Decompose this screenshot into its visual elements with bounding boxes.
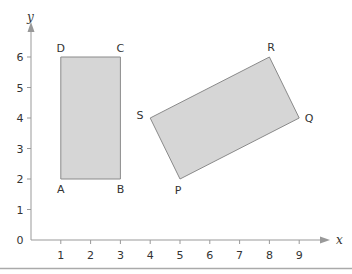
origin-label: 0 [17, 234, 24, 247]
x-tick-label: 2 [87, 249, 94, 262]
x-axis-label: x [336, 233, 343, 247]
vertex-label-c: C [117, 42, 125, 55]
y-tick-label: 3 [17, 143, 24, 156]
x-tick-label: 7 [236, 249, 243, 262]
y-ticks [27, 57, 31, 210]
vertex-label-p: P [175, 184, 182, 197]
x-tick-label: 4 [147, 249, 154, 262]
x-tick-label: 3 [117, 249, 124, 262]
y-tick-label: 6 [17, 51, 24, 64]
x-axis-arrow-icon [320, 237, 330, 244]
vertex-label-b: B [117, 183, 125, 196]
x-ticks [61, 240, 299, 244]
y-tick-label: 1 [17, 204, 24, 217]
x-tick-label: 9 [296, 249, 303, 262]
x-tick-label: 6 [206, 249, 213, 262]
rectangle-pqrs [150, 57, 299, 179]
y-tick-label: 5 [17, 82, 24, 95]
vertex-label-q: Q [305, 112, 314, 125]
y-tick-label: 4 [17, 112, 24, 125]
vertex-label-a: A [57, 183, 65, 196]
y-axis-label: y [26, 10, 34, 24]
vertex-label-d: D [57, 42, 65, 55]
coordinate-diagram: 1 2 3 4 5 6 7 8 9 0 1 2 3 4 5 6 x y A B … [0, 0, 352, 274]
x-tick-label: 8 [266, 249, 273, 262]
rectangle-abcd [61, 57, 121, 179]
x-tick-label: 5 [177, 249, 184, 262]
x-tick-label: 1 [57, 249, 64, 262]
vertex-label-s: S [137, 109, 144, 122]
vertex-label-r: R [267, 41, 275, 54]
y-tick-label: 2 [17, 173, 24, 186]
